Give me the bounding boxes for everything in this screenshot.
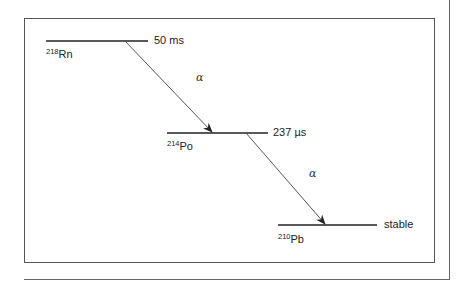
nuclide-label-po214: 214Po	[167, 140, 193, 152]
mass-number: 214	[167, 139, 180, 148]
mass-number: 218	[46, 47, 59, 56]
alpha-label-1: α	[196, 72, 203, 83]
diagram-frame	[25, 19, 435, 263]
nuclide-label-pb210: 210Pb	[278, 233, 304, 245]
halflife-pb210: stable	[384, 219, 413, 230]
decay-diagram	[0, 0, 464, 282]
nuclide-label-rn218: 218Rn	[46, 48, 73, 60]
element-symbol: Pb	[291, 233, 304, 245]
element-symbol: Po	[180, 140, 193, 152]
alpha-decay-arrow-1	[125, 41, 212, 132]
halflife-rn218: 50 ms	[154, 35, 184, 46]
element-symbol: Rn	[59, 48, 73, 60]
alpha-label-2: α	[309, 168, 316, 179]
halflife-po214: 237 µs	[273, 127, 306, 138]
mass-number: 210	[278, 232, 291, 241]
